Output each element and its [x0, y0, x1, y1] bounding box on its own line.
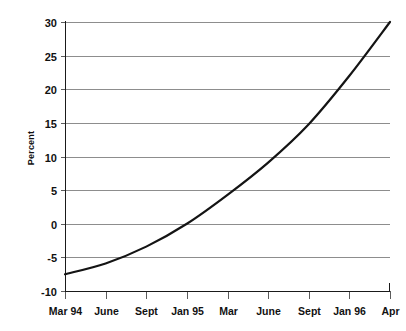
y-tick-label: 25: [45, 51, 57, 63]
x-tick-label: Sept: [135, 305, 158, 317]
x-tick-label: June: [256, 305, 281, 317]
x-tick-label: Jan 96: [333, 305, 366, 317]
y-axis-title: Percent: [26, 131, 36, 165]
x-tick-label: Jan 95: [171, 305, 204, 317]
y-tick-label: 15: [45, 118, 57, 130]
x-axis-tickmarks: [66, 291, 391, 299]
y-tick-label: 0: [51, 219, 57, 231]
plot-background: [65, 22, 390, 291]
y-tick-label: -10: [41, 286, 57, 298]
chart-canvas: 302520151050-5-10 Mar 94JuneSeptJan 95Ma…: [0, 0, 406, 331]
y-axis-ticks: 302520151050-5-10: [41, 17, 57, 298]
y-tick-label: 5: [51, 185, 57, 197]
x-tick-label: Mar: [219, 305, 238, 317]
x-tick-label: Apr: [381, 305, 399, 317]
x-axis-labels: Mar 94JuneSeptJan 95MarJuneSeptJan 96Apr: [49, 305, 400, 317]
line-chart: 302520151050-5-10 Mar 94JuneSeptJan 95Ma…: [0, 0, 406, 331]
y-tick-label: 20: [45, 84, 57, 96]
y-tick-label: 10: [45, 152, 57, 164]
x-tick-label: Sept: [298, 305, 321, 317]
y-tick-label: 30: [45, 17, 57, 29]
x-tick-label: Mar 94: [49, 305, 82, 317]
x-tick-label: June: [94, 305, 119, 317]
y-tick-label: -5: [47, 252, 57, 264]
